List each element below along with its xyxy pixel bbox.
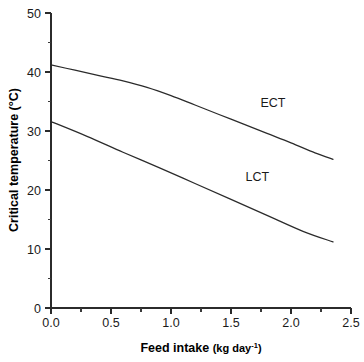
- x-tick-label-0.0: 0.0: [42, 316, 59, 330]
- x-axis-title-unit-exponent: -1: [251, 341, 258, 350]
- y-tick-label-0: 0: [34, 302, 41, 316]
- series-label-ect: ECT: [261, 96, 286, 110]
- x-tick-label-1.0: 1.0: [162, 316, 179, 330]
- y-tick-label-40: 40: [27, 66, 41, 80]
- y-tick-label-20: 20: [27, 184, 41, 198]
- y-tick-label-50: 50: [27, 7, 41, 21]
- series-label-lct: LCT: [246, 170, 270, 184]
- y-tick-label-30: 30: [27, 125, 41, 139]
- x-tick-label-2.0: 2.0: [282, 316, 299, 330]
- y-axis-title: Critical temperature (°C): [7, 88, 21, 232]
- x-tick-label-2.5: 2.5: [342, 316, 359, 330]
- x-axis-title-main: Feed intake: [140, 341, 212, 355]
- x-tick-label-1.5: 1.5: [222, 316, 239, 330]
- x-axis-title-unit-close: ): [258, 342, 262, 354]
- x-tick-label-0.5: 0.5: [102, 316, 119, 330]
- x-axis-title: Feed intake (kg day-1): [140, 341, 261, 355]
- chart-figure: 01020304050 0.00.51.01.52.02.5 ECTLCT Fe…: [0, 0, 364, 362]
- x-axis-title-unit: (kg day: [213, 342, 252, 354]
- y-tick-label-10: 10: [27, 243, 41, 257]
- critical-temperature-line-chart: 01020304050 0.00.51.01.52.02.5 ECTLCT Fe…: [0, 0, 364, 362]
